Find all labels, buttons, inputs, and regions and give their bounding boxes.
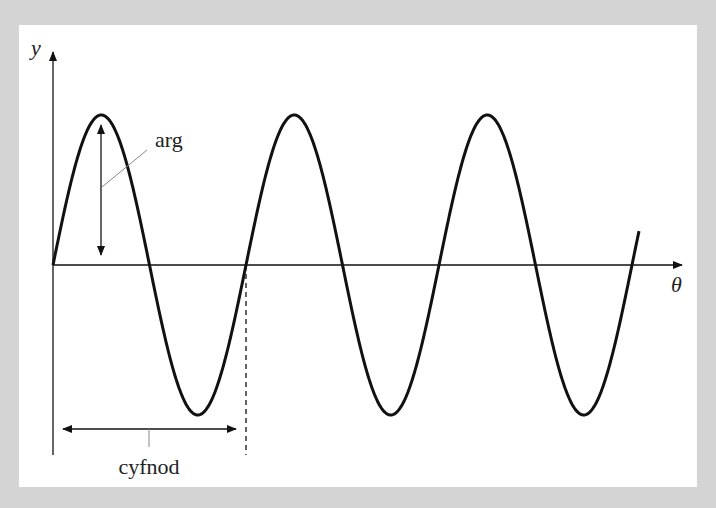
y-axis-label: y (29, 35, 41, 60)
amplitude-label: arg (155, 127, 183, 152)
x-axis-label: θ (671, 272, 682, 297)
period-label: cyfnod (118, 454, 179, 479)
sine-wave-diagram: y θ arg cyfnod (0, 0, 716, 508)
